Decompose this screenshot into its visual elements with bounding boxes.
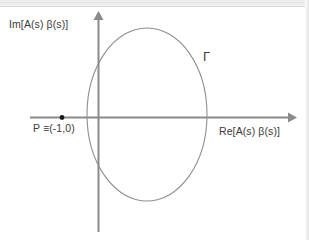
gamma-contour-curve: [87, 28, 207, 201]
imaginary-axis: [94, 11, 104, 232]
critical-point-label: P ≡(-1,0): [33, 123, 75, 135]
plot-canvas: [0, 0, 309, 240]
nyquist-figure: Im[A(s) β(s)] Re[A(s) β(s)] P ≡(-1,0) Γ: [0, 0, 309, 240]
gamma-contour-label: Γ: [203, 50, 210, 64]
imaginary-axis-label: Im[A(s) β(s)]: [9, 19, 68, 31]
real-axis-arrowhead-icon: [288, 113, 297, 123]
critical-point-marker: [60, 115, 65, 120]
real-axis-label: Re[A(s) β(s)]: [219, 126, 280, 138]
real-axis: [30, 113, 297, 123]
imaginary-axis-arrowhead-icon: [94, 11, 104, 20]
